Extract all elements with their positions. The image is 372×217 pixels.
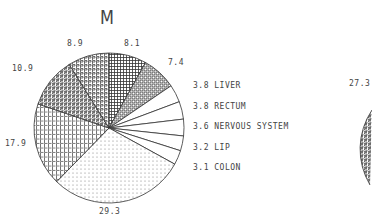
- label-17-9: 17.9: [5, 139, 26, 148]
- legend-item-nervous-system: 3.6 NERVOUS SYSTEM: [193, 122, 289, 143]
- label-29-3: 29.3: [99, 207, 120, 216]
- second-pie-partial: [360, 110, 372, 185]
- legend-item-rectum: 3.8 RECTUM: [193, 102, 289, 123]
- legend-item-liver: 3.8 LIVER: [193, 81, 289, 102]
- pie-chart: [0, 0, 372, 217]
- legend: 3.8 LIVER 3.8 RECTUM 3.6 NERVOUS SYSTEM …: [193, 81, 289, 184]
- label-8-1: 8.1: [124, 39, 140, 48]
- legend-item-colon: 3.1 COLON: [193, 163, 289, 184]
- label-10-9: 10.9: [12, 64, 33, 73]
- label-8-9: 8.9: [67, 39, 83, 48]
- label-7-4: 7.4: [168, 58, 184, 67]
- legend-item-lip: 3.2 LIP: [193, 143, 289, 164]
- label-27-3: 27.3: [349, 79, 370, 88]
